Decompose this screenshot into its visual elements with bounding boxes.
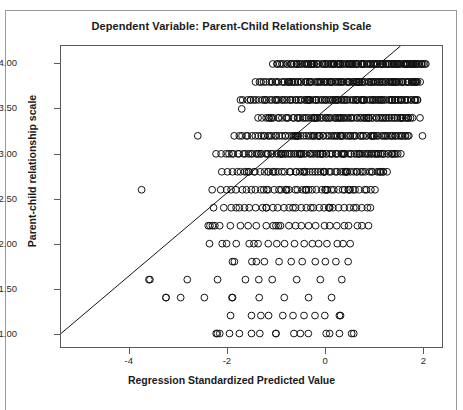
y-tick-label: 4.00 [0, 57, 17, 68]
x-tick-label: -2 [207, 355, 247, 366]
reference-line-layer [61, 46, 442, 347]
x-tick-label: 0 [305, 355, 345, 366]
plot-area [60, 45, 443, 348]
x-tick-label: 2 [403, 355, 443, 366]
y-axis-title: Parent-child relationship scale [26, 51, 38, 291]
x-tick-mark [129, 348, 130, 354]
chart-title: Dependent Variable: Parent-Child Relatio… [0, 20, 463, 32]
y-tick-label: 3.50 [0, 102, 17, 113]
x-tick-label: -4 [109, 355, 149, 366]
y-tick-label: 3.00 [0, 148, 17, 159]
x-tick-mark [227, 348, 228, 354]
x-tick-mark [423, 348, 424, 354]
x-tick-mark [325, 348, 326, 354]
y-tick-label: 2.00 [0, 238, 17, 249]
y-tick-label: 1.50 [0, 283, 17, 294]
reference-line [61, 46, 400, 334]
y-tick-label: 1.00 [0, 328, 17, 339]
y-tick-label: 2.50 [0, 193, 17, 204]
x-axis-title: Regression Standardized Predicted Value [0, 374, 463, 386]
